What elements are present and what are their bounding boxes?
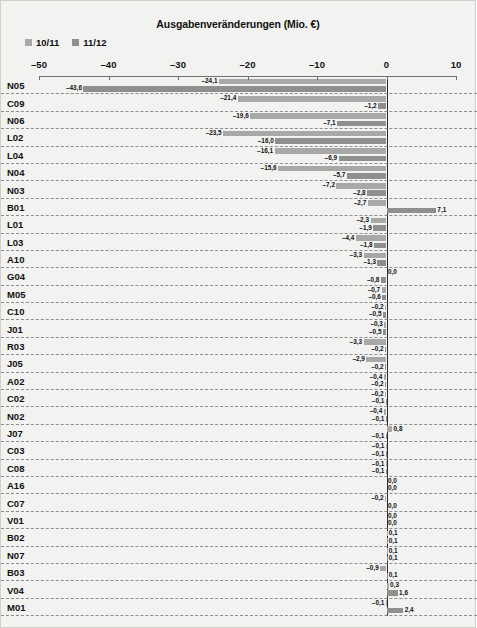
bar-10-11[interactable] <box>385 305 386 311</box>
category-label: L02 <box>7 132 23 143</box>
chart-row: M01–0,12,4 <box>1 599 477 616</box>
chart-row: B03–0,90,1 <box>1 564 477 581</box>
bar-11-12[interactable] <box>367 190 386 196</box>
category-label: C03 <box>7 445 24 456</box>
bar-value-label: –0,1 <box>372 433 386 439</box>
bar-value-label: –23,5 <box>206 130 224 136</box>
chart-row: C03–0,1–0,1 <box>1 442 477 459</box>
legend-item-11-12[interactable]: 11/12 <box>72 37 106 48</box>
bar-value-label: –2,9 <box>352 356 366 362</box>
bar-10-11[interactable] <box>385 392 386 398</box>
bar-value-label: –0,9 <box>366 565 380 571</box>
chart-row: C08–0,1–0,1 <box>1 460 477 477</box>
bar-11-12[interactable] <box>385 364 386 370</box>
bar-11-12[interactable] <box>383 329 386 335</box>
legend-item-10-11[interactable]: 10/11 <box>25 37 59 48</box>
bar-value-label: –0,2 <box>371 346 385 352</box>
bar-11-12[interactable] <box>383 312 386 318</box>
bar-10-11[interactable] <box>371 218 387 224</box>
bar-10-11[interactable] <box>384 322 386 328</box>
bar-11-12[interactable] <box>386 416 387 422</box>
bar-value-label: –0,1 <box>372 468 386 474</box>
bar-11-12[interactable] <box>347 173 387 179</box>
plot-area: –50–40–30–20–10010 N05–24,1–43,6C09–21,4… <box>1 59 477 619</box>
bar-10-11[interactable] <box>385 496 386 502</box>
x-axis-tick-mark <box>387 76 388 80</box>
chart-title: Ausgabenveränderungen (Mio. €) <box>1 18 475 30</box>
bar-10-11[interactable] <box>278 166 386 172</box>
bar-11-12[interactable] <box>373 225 386 231</box>
chart-row: V010,00,0 <box>1 512 477 529</box>
bar-10-11[interactable] <box>336 183 386 189</box>
x-axis-tick-label: –50 <box>31 59 47 70</box>
chart-row: A02–0,4–0,2 <box>1 373 477 390</box>
x-axis-tick-mark <box>178 76 179 80</box>
category-label: A16 <box>7 480 24 491</box>
bar-10-11[interactable] <box>223 131 386 137</box>
bar-10-11[interactable] <box>380 566 386 572</box>
bar-11-12[interactable] <box>386 434 387 440</box>
chart-row: C10–0,2–0,5 <box>1 303 477 320</box>
bar-11-12[interactable] <box>385 347 386 353</box>
chart-legend: 10/1111/12 <box>25 37 107 48</box>
bar-value-label: –0,5 <box>369 329 383 335</box>
bar-10-11[interactable] <box>219 79 386 85</box>
bar-11-12[interactable] <box>337 121 386 127</box>
bar-value-label: 0,0 <box>387 503 397 509</box>
category-label: N04 <box>7 167 24 178</box>
bar-value-label: 2,4 <box>403 607 413 613</box>
x-axis-tick-mark <box>39 76 40 80</box>
bar-value-label: –0,2 <box>371 364 385 370</box>
bar-10-11[interactable] <box>368 200 387 206</box>
bar-10-11[interactable] <box>356 235 387 241</box>
bar-10-11[interactable] <box>386 461 387 467</box>
bar-10-11[interactable] <box>384 374 387 380</box>
bar-11-12[interactable] <box>387 590 398 596</box>
bar-value-label: 0,0 <box>387 269 397 275</box>
bar-10-11[interactable] <box>366 357 386 363</box>
bar-11-12[interactable] <box>378 103 386 109</box>
bar-10-11[interactable] <box>250 113 386 119</box>
category-label: A10 <box>7 254 24 265</box>
chart-row: N04–15,6–5,7 <box>1 164 477 181</box>
bar-11-12[interactable] <box>387 608 404 614</box>
bar-11-12[interactable] <box>275 138 386 144</box>
category-label: M05 <box>7 288 25 299</box>
bar-10-11[interactable] <box>386 600 387 606</box>
bar-value-label: –0,1 <box>372 600 386 606</box>
bar-value-label: 0,3 <box>389 582 399 588</box>
bar-11-12[interactable] <box>387 208 436 214</box>
bar-value-label: –4,4 <box>342 235 356 241</box>
bar-11-12[interactable] <box>385 382 386 388</box>
chart-row: J05–2,9–0,2 <box>1 355 477 372</box>
bar-10-11[interactable] <box>238 96 387 102</box>
bar-10-11[interactable] <box>364 339 387 345</box>
x-axis-tick-label: 0 <box>384 59 389 70</box>
bar-10-11[interactable] <box>275 148 387 154</box>
category-label: C08 <box>7 462 24 473</box>
bar-10-11[interactable] <box>386 444 387 450</box>
bar-10-11[interactable] <box>364 253 387 259</box>
bar-11-12[interactable] <box>382 295 386 301</box>
x-axis-tick-label: 10 <box>451 59 462 70</box>
chart-row: A160,00,0 <box>1 477 477 494</box>
bar-11-12[interactable] <box>339 156 387 162</box>
bar-11-12[interactable] <box>83 86 386 92</box>
bar-11-12[interactable] <box>374 243 387 249</box>
x-axis-tick-label: –20 <box>240 59 256 70</box>
x-axis-tick-labels: –50–40–30–20–10010 <box>1 59 477 75</box>
bar-11-12[interactable] <box>386 451 387 457</box>
chart-row: N06–19,6–7,1 <box>1 112 477 129</box>
bar-value-label: –2,7 <box>354 200 368 206</box>
bar-value-label: –7,1 <box>323 120 337 126</box>
bar-10-11[interactable] <box>384 409 387 415</box>
x-axis-tick-label: –10 <box>309 59 325 70</box>
bar-value-label: 0,1 <box>387 530 397 536</box>
category-label: G04 <box>7 271 25 282</box>
bar-11-12[interactable] <box>377 260 386 266</box>
bar-10-11[interactable] <box>382 287 387 293</box>
chart-row: L03–4,4–1,8 <box>1 234 477 251</box>
bar-11-12[interactable] <box>386 399 387 405</box>
bar-11-12[interactable] <box>386 469 387 475</box>
bar-11-12[interactable] <box>381 277 387 283</box>
